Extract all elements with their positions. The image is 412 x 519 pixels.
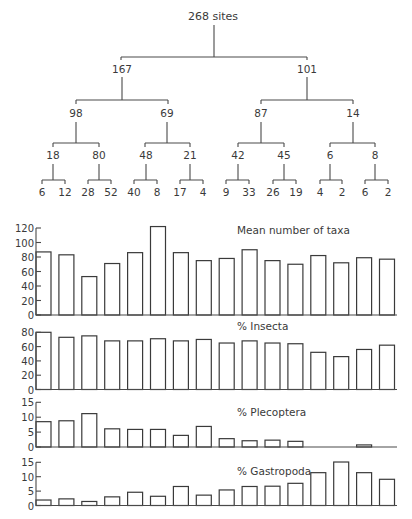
bar	[105, 429, 120, 447]
bar	[59, 421, 74, 447]
bar	[242, 250, 257, 315]
dendrogram-root-label: 268 sites	[188, 10, 238, 23]
bar	[242, 341, 257, 390]
bar	[288, 483, 303, 505]
dendrogram-leaf-label: 6	[39, 186, 46, 198]
bar	[311, 256, 326, 315]
bar	[82, 336, 97, 390]
dendrogram-branch	[145, 122, 190, 147]
bar-panel-3: 051015% Plecoptera	[21, 397, 397, 453]
bar	[380, 345, 395, 389]
bar	[380, 479, 395, 505]
dendrogram-node-label: 80	[92, 149, 105, 161]
y-tick-label: 15	[21, 397, 34, 408]
dendrogram-branch	[261, 77, 353, 104]
dendrogram-node-label: 69	[160, 107, 173, 119]
y-tick-label: 15	[21, 457, 34, 468]
bar	[242, 441, 257, 447]
dendrogram: 268 sites 167 101 98 69 87 14 18 80 48 2…	[39, 10, 392, 198]
dendrogram-branch	[226, 164, 249, 184]
bar	[357, 349, 372, 389]
bar	[59, 255, 74, 315]
dendrogram-node-label: 21	[183, 149, 196, 161]
dendrogram-node-label: 45	[277, 149, 290, 161]
bar	[311, 473, 326, 506]
bar	[334, 462, 349, 505]
bar	[36, 500, 51, 505]
bar	[173, 486, 188, 505]
bar-panel-1: 020406080100120Mean number of taxa	[15, 223, 397, 321]
bar	[288, 344, 303, 390]
dendrogram-leaf-label: 4	[200, 186, 207, 198]
dendrogram-branch-root	[121, 25, 307, 60]
figure-canvas: 268 sites 167 101 98 69 87 14 18 80 48 2…	[0, 0, 412, 519]
bar	[357, 258, 372, 315]
y-tick-label: 10	[21, 412, 34, 423]
dendrogram-node-label: 48	[139, 149, 152, 161]
panel-title: Mean number of taxa	[237, 224, 350, 236]
dendrogram-node-label: 167	[112, 63, 132, 75]
y-tick-label: 80	[21, 327, 34, 338]
bar	[173, 341, 188, 390]
bar	[128, 492, 143, 505]
dendrogram-branch	[320, 164, 342, 184]
dendrogram-leaf-label: 40	[127, 186, 140, 198]
dendrogram-leaf-label: 52	[104, 186, 117, 198]
bar	[311, 352, 326, 389]
bar	[173, 253, 188, 315]
bar	[196, 339, 211, 389]
bar	[82, 414, 97, 447]
bar	[265, 440, 280, 447]
y-tick-label: 100	[15, 238, 34, 249]
bar	[265, 343, 280, 389]
dendrogram-node-label: 8	[372, 149, 379, 161]
figure: 268 sites 167 101 98 69 87 14 18 80 48 2…	[0, 0, 412, 519]
dendrogram-leaf-label: 17	[173, 186, 186, 198]
dendrogram-node-label: 14	[346, 107, 360, 119]
dendrogram-node-label: 6	[327, 149, 334, 161]
bar	[105, 497, 120, 506]
y-tick-label: 80	[21, 252, 34, 263]
dendrogram-branch	[53, 122, 99, 147]
dendrogram-branch	[76, 77, 168, 104]
bar	[59, 499, 74, 506]
dendrogram-node-label: 18	[46, 149, 59, 161]
dendrogram-leaf-label: 9	[223, 186, 230, 198]
bar	[219, 490, 234, 506]
bar-panel-2: 020406080% Insecta	[21, 320, 397, 396]
dendrogram-branch	[180, 164, 203, 184]
dendrogram-leaf-label: 2	[339, 186, 346, 198]
y-tick-label: 40	[21, 281, 34, 292]
bar	[288, 264, 303, 315]
bar	[36, 252, 51, 315]
bar	[36, 422, 51, 447]
bar	[128, 341, 143, 390]
bar	[196, 261, 211, 315]
dendrogram-branch	[330, 122, 375, 147]
panel-title: % Gastropoda	[237, 465, 311, 477]
dendrogram-node-label: 98	[69, 107, 82, 119]
dendrogram-leaf-label: 26	[266, 186, 280, 198]
dendrogram-branch	[88, 164, 111, 184]
bar	[82, 501, 97, 505]
bar	[334, 263, 349, 315]
dendrogram-branch	[134, 164, 157, 184]
y-tick-label: 5	[28, 427, 34, 438]
dendrogram-branch	[273, 164, 296, 184]
bar	[105, 341, 120, 390]
dendrogram-node-label: 42	[231, 149, 244, 161]
y-tick-label: 5	[28, 486, 34, 497]
dendrogram-leaf-label: 19	[289, 186, 302, 198]
y-tick-label: 120	[15, 223, 34, 234]
bar	[265, 486, 280, 505]
bar	[128, 429, 143, 447]
bar	[219, 343, 234, 389]
bar-chart-panels: 020406080100120Mean number of taxa020406…	[15, 223, 397, 512]
dendrogram-leaf-label: 6	[362, 186, 369, 198]
bar	[219, 258, 234, 315]
y-tick-label: 20	[21, 296, 34, 307]
y-tick-label: 60	[21, 342, 34, 353]
bar	[151, 496, 166, 505]
bar	[265, 261, 280, 315]
dendrogram-leaf-label: 33	[242, 186, 255, 198]
